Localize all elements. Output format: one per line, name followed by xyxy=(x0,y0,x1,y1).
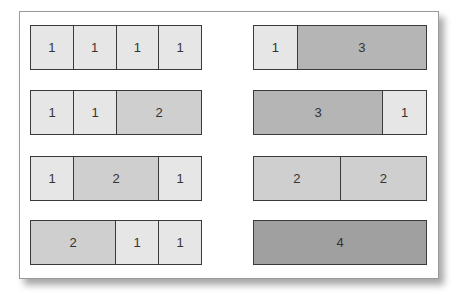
segment-2: 2 xyxy=(73,157,158,200)
segment-1: 1 xyxy=(73,91,116,134)
segment-2: 2 xyxy=(340,157,427,200)
segment-4: 4 xyxy=(254,221,426,264)
segment-1: 1 xyxy=(254,26,297,69)
segment-3: 3 xyxy=(254,91,382,134)
segment-2: 2 xyxy=(254,157,340,200)
segment-1: 1 xyxy=(158,157,201,200)
segment-1: 1 xyxy=(31,157,73,200)
partition-bar-right-2: 31 xyxy=(253,90,427,135)
partition-bar-right-1: 13 xyxy=(253,25,427,70)
partition-bar-left-2: 112 xyxy=(30,90,202,135)
segment-1: 1 xyxy=(116,26,159,69)
partition-bar-right-3: 22 xyxy=(253,156,427,201)
segment-1: 1 xyxy=(158,221,201,264)
partition-bar-left-1: 1111 xyxy=(30,25,202,70)
segment-1: 1 xyxy=(158,26,201,69)
partition-bar-right-4: 4 xyxy=(253,220,427,265)
segment-3: 3 xyxy=(297,26,426,69)
segment-2: 2 xyxy=(31,221,115,264)
segment-2: 2 xyxy=(116,91,201,134)
segment-1: 1 xyxy=(115,221,158,264)
segment-1: 1 xyxy=(31,91,73,134)
segment-1: 1 xyxy=(382,91,426,134)
partition-bar-left-3: 121 xyxy=(30,156,202,201)
segment-1: 1 xyxy=(73,26,116,69)
partition-bar-left-4: 211 xyxy=(30,220,202,265)
segment-1: 1 xyxy=(31,26,73,69)
